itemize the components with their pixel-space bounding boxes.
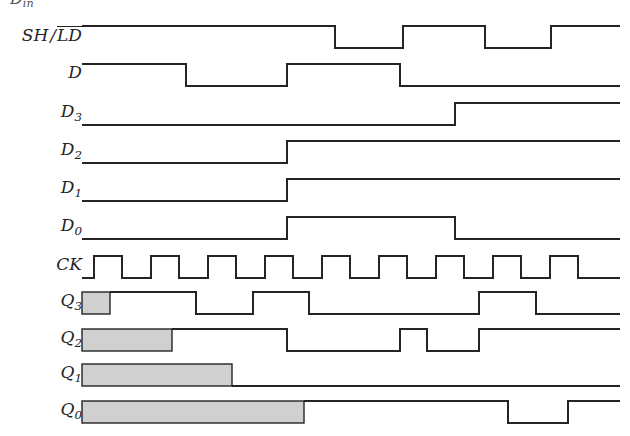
- waveform-trace-q0: [304, 401, 620, 423]
- waveform-d: [82, 64, 620, 86]
- waveform-trace-d2: [82, 141, 620, 163]
- waveform-trace-ck: [82, 256, 620, 278]
- waveform-trace-sh-ld: [82, 26, 620, 48]
- timing-diagram: Din SH/LD D D3 D2 D1 D0 CK Q3 Q2 Q1 Q0: [0, 0, 630, 436]
- waveform-ck: [82, 256, 620, 278]
- waveform-trace-d1: [82, 179, 620, 201]
- waveform-trace-d3: [82, 103, 620, 125]
- waveform-q2: [82, 329, 620, 351]
- waveform-trace-d0: [82, 217, 620, 239]
- waveform-trace-d: [82, 64, 620, 86]
- waveform-d1: [82, 179, 620, 201]
- shaded-unknown-region-q0: [82, 401, 304, 423]
- waveform-d0: [82, 217, 620, 239]
- shaded-unknown-region-q1: [82, 364, 232, 386]
- shaded-unknown-region-q3: [82, 292, 110, 314]
- shaded-unknown-region-q2: [82, 329, 172, 351]
- waveform-trace-q3: [110, 292, 620, 314]
- waveform-trace-q2: [172, 329, 620, 351]
- waveform-q1: [82, 364, 620, 386]
- waveform-d3: [82, 103, 620, 125]
- waveform-sh-ld: [82, 26, 620, 48]
- waveform-q3: [82, 292, 620, 314]
- waveform-canvas: [0, 0, 630, 436]
- waveform-d2: [82, 141, 620, 163]
- waveform-q0: [82, 401, 620, 423]
